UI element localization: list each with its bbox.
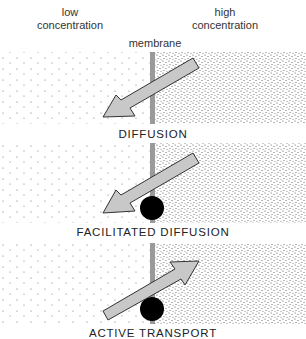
panel-facilitated-diffusion [0,143,306,223]
carrier-protein-icon [140,297,164,321]
panel-active-transport [0,243,306,324]
carrier-protein-icon [140,196,164,220]
caption-active-transport: ACTIVE TRANSPORT [0,327,306,339]
caption-facilitated-diffusion: FACILITATED DIFFUSION [0,226,306,238]
caption-diffusion: DIFFUSION [0,128,306,140]
panel-diffusion [0,52,306,124]
